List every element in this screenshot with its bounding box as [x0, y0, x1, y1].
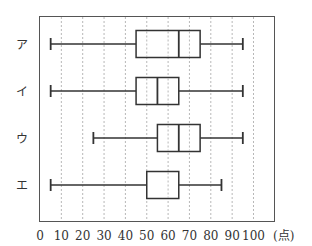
x-tick-label: 40	[118, 229, 133, 243]
iqr-box	[147, 172, 179, 199]
category-label: ウ	[16, 132, 28, 146]
x-axis-unit-label: (点)	[273, 229, 294, 243]
category-label: イ	[16, 85, 28, 99]
x-tick-label: 0	[36, 229, 44, 243]
x-tick-label: 60	[160, 229, 175, 243]
boxplot-chart: アイウエ 0102030405060708090100 (点)	[0, 0, 312, 246]
box-3: ウ	[16, 125, 243, 152]
box-2: イ	[16, 78, 243, 105]
x-tick-label: 70	[182, 229, 197, 243]
x-tick-label: 100	[242, 229, 265, 243]
x-axis-ticks: 0102030405060708090100	[36, 229, 265, 243]
box-1: ア	[16, 31, 243, 58]
boxes: アイウエ	[16, 31, 243, 199]
x-tick-label: 90	[225, 229, 240, 243]
category-label: ア	[16, 38, 28, 52]
category-label: エ	[16, 179, 28, 193]
x-tick-label: 30	[96, 229, 111, 243]
x-tick-label: 50	[139, 229, 154, 243]
box-4: エ	[16, 172, 221, 199]
x-tick-label: 80	[203, 229, 218, 243]
x-tick-label: 20	[75, 229, 90, 243]
x-tick-label: 10	[54, 229, 69, 243]
